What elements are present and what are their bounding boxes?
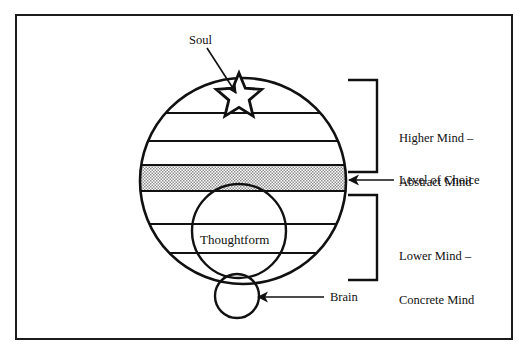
label-higher-mind-line1: Higher Mind – [399,131,473,146]
label-brain: Brain [330,290,358,305]
label-soul: Soul [189,33,212,48]
label-lower-mind-line2: Concrete Mind [399,293,474,308]
level-of-choice-band [130,165,360,191]
higher-mind-bracket [348,80,377,172]
lower-mind-bracket [348,195,377,280]
label-level-of-choice: Level of Choice [399,173,480,188]
label-lower-mind: Lower Mind – Concrete Mind [399,219,474,337]
label-higher-mind: Higher Mind – Abstract Mind [399,101,473,219]
label-lower-mind-line1: Lower Mind – [399,249,474,264]
thoughtform-circle [192,184,286,278]
soul-arrow [207,48,236,93]
label-thoughtform: Thoughtform [200,232,269,247]
diagram-page: Soul Higher Mind – Abstract Mind Level o… [0,0,528,353]
brain-circle [215,274,259,318]
